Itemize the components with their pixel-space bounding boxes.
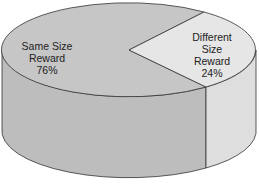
label-same-size: Same Size Reward 76% [12, 40, 82, 76]
pie-chart-3d [0, 0, 259, 185]
label-different-size: Different Size Reward 24% [182, 31, 242, 79]
label-line: Size [182, 43, 242, 55]
label-line: Reward [182, 55, 242, 67]
label-value: 76% [12, 64, 82, 76]
label-line: Different [182, 31, 242, 43]
label-line: Same Size [12, 40, 82, 52]
label-value: 24% [182, 67, 242, 79]
label-line: Reward [12, 52, 82, 64]
